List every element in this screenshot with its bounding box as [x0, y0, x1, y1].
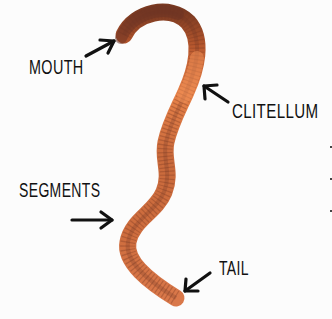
earthworm-diagram: MOUTH CLITELLUM SEGMENTS TAIL — [0, 0, 332, 319]
tail-arrow — [185, 273, 210, 291]
worm-illustration — [0, 0, 332, 319]
tail-label: TAIL — [219, 258, 249, 278]
segments-arrow — [72, 212, 112, 228]
worm-body — [121, 11, 197, 298]
clitellum-label: CLITELLUM — [232, 100, 318, 121]
mouth-arrow — [86, 40, 114, 56]
mouth-label: MOUTH — [29, 57, 84, 77]
clitellum-arrow — [204, 85, 228, 102]
segments-label: SEGMENTS — [19, 180, 100, 200]
